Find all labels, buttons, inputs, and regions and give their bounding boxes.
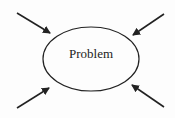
arrow-top-left [17, 13, 50, 33]
arrow-bottom-right [132, 85, 164, 107]
arrow-bottom-left [17, 88, 49, 108]
arrow-top-right [133, 14, 164, 35]
problem-label: Problem [44, 46, 138, 62]
diagram-canvas: Problem [0, 0, 175, 118]
